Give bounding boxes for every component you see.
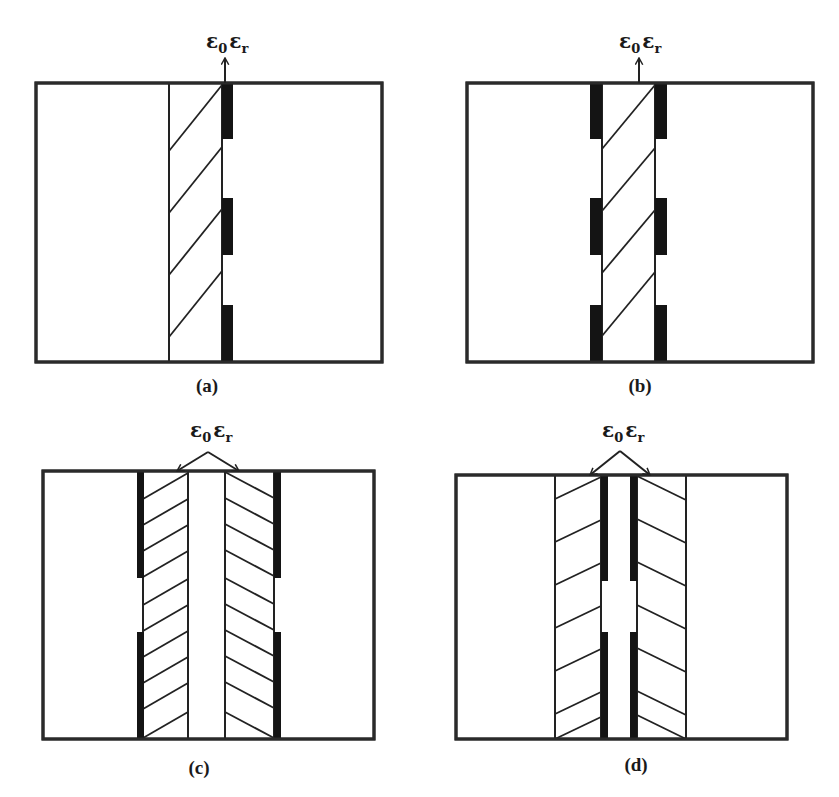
permittivity-label: ε0εr <box>619 29 661 56</box>
panel-label-d: (d) <box>624 754 647 776</box>
panel-frame <box>43 471 374 739</box>
electrode <box>630 632 637 739</box>
electrode <box>274 471 281 578</box>
electrode <box>601 475 608 581</box>
permittivity-label: ε0εr <box>190 418 232 445</box>
electrode <box>222 198 233 255</box>
electrode <box>222 305 233 362</box>
panel-b: ε0εr(b) <box>467 29 813 397</box>
permittivity-arrow <box>177 452 208 471</box>
panel-a: ε0εr(a) <box>36 29 382 397</box>
electrode <box>601 632 608 739</box>
permittivity-arrow <box>620 451 650 475</box>
electrode <box>655 198 667 255</box>
panel-frame <box>467 83 813 362</box>
permittivity-arrow <box>208 452 239 471</box>
electrode <box>655 305 667 362</box>
electrode <box>222 83 233 139</box>
panel-d: ε0εr(d) <box>456 418 787 776</box>
electrode <box>630 475 637 581</box>
panel-frame <box>456 475 787 739</box>
sensor-configuration-figure: ε0εr(a) ε0εr(b) ε0εr(c) ε0εr(d) <box>0 0 839 797</box>
electrode <box>655 83 667 139</box>
electrode <box>590 198 602 255</box>
permittivity-label: ε0εr <box>602 418 644 445</box>
panel-label-b: (b) <box>628 375 651 397</box>
panel-label-c: (c) <box>188 757 209 779</box>
electrode <box>590 83 602 139</box>
electrode <box>137 632 144 739</box>
electrode <box>590 305 602 362</box>
panel-c: ε0εr(c) <box>43 418 374 779</box>
permittivity-label: ε0εr <box>206 29 248 56</box>
panel-label-a: (a) <box>196 375 218 397</box>
electrode <box>137 471 144 578</box>
permittivity-arrow <box>590 451 620 475</box>
electrode <box>274 632 281 739</box>
panel-frame <box>36 83 382 362</box>
